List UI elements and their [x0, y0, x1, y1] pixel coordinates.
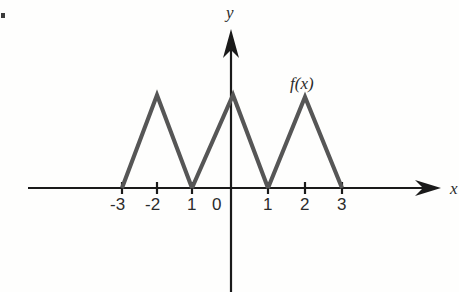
x-tick-label--2: -2 [145, 196, 160, 213]
x-tick-label-1: 1 [263, 196, 272, 213]
x-tick-label-2: 2 [300, 196, 309, 213]
y-axis-label: y [226, 4, 234, 21]
function-curve-triangle-1 [122, 95, 192, 188]
graph-figure: -3 -2 1 0 1 2 3 y x f(x) [0, 0, 459, 292]
x-tick-label-0: 0 [212, 196, 221, 213]
function-curve-triangle-3 [268, 97, 342, 188]
x-axis-label: x [450, 180, 458, 197]
x-tick-label-3: 3 [337, 196, 346, 213]
plot-canvas [0, 0, 459, 292]
function-label: f(x) [290, 75, 314, 92]
x-tick-label--1: 1 [187, 196, 196, 213]
x-tick-label--3: -3 [110, 196, 125, 213]
